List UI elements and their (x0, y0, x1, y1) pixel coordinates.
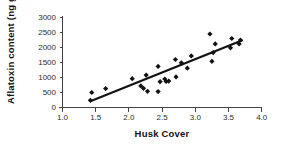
y-axis-title: Aflatoxin content (ng g-1) (5, 0, 16, 104)
data-point (145, 89, 150, 94)
data-point (156, 64, 161, 69)
y-tick-label-2000: 2000 (38, 43, 56, 52)
data-point (89, 90, 94, 95)
y-tick-label-1500: 1500 (38, 58, 56, 67)
x-tick-label-3-5: 3.5 (223, 113, 235, 122)
data-point (144, 73, 149, 78)
chart-figure: Aflatoxin content (ng g-1) 0 500 1000 15… (0, 0, 286, 145)
data-point (173, 57, 178, 62)
data-point (185, 66, 190, 71)
y-tick-label-0: 0 (52, 103, 57, 112)
x-tick-label-3-0: 3.0 (190, 113, 202, 122)
y-tick-label-3000: 3000 (38, 13, 56, 22)
data-point (103, 86, 108, 91)
y-axis-title-main: Aflatoxin content (ng g (5, 0, 16, 104)
data-point (213, 41, 218, 46)
x-tick-label-2-5: 2.5 (157, 113, 169, 122)
scatter-plot: Aflatoxin content (ng g-1) 0 500 1000 15… (0, 0, 286, 145)
x-tick-label-4-0: 4.0 (256, 113, 268, 122)
y-tick-label-500: 500 (43, 88, 57, 97)
y-axis-ticks: 0 500 1000 1500 2000 2500 3000 (38, 13, 62, 112)
data-point (207, 31, 212, 36)
data-point (173, 74, 178, 79)
data-point (156, 89, 161, 94)
data-point (209, 59, 214, 64)
data-point (189, 53, 194, 58)
x-tick-label-2-0: 2.0 (123, 113, 135, 122)
x-tick-label-1-0: 1.0 (57, 113, 69, 122)
data-point (158, 79, 163, 84)
x-tick-label-1-5: 1.5 (90, 113, 102, 122)
trend-line (90, 41, 241, 102)
y-tick-label-2500: 2500 (38, 28, 56, 37)
trend-line-layer (90, 41, 241, 102)
y-tick-label-1000: 1000 (38, 73, 56, 82)
data-point (229, 36, 234, 41)
data-point (88, 98, 93, 103)
x-axis-ticks: 1.0 1.5 2.0 2.5 3.0 3.5 4.0 (57, 108, 268, 123)
data-point (130, 76, 135, 81)
x-axis-title: Husk Cover (135, 128, 190, 139)
